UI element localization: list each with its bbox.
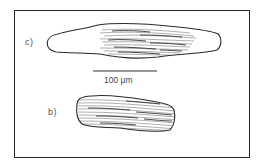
cell-c-striations bbox=[100, 29, 196, 55]
panel-b-label: b) bbox=[48, 108, 57, 117]
cell-c-shape bbox=[47, 24, 221, 58]
panel-c-label: c) bbox=[25, 38, 34, 47]
figure: c) 100 μm b) bbox=[0, 0, 259, 167]
scale-bar-label: 100 μm bbox=[104, 76, 133, 85]
cell-b-shape bbox=[77, 96, 176, 131]
